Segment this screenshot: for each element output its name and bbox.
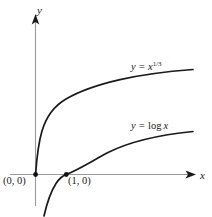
curve-label-cube-root-base: y = x <box>131 61 153 72</box>
y-axis <box>32 14 40 206</box>
curve-cube-root <box>36 70 193 175</box>
y-axis-label: y <box>37 5 42 16</box>
curve-label-cube-root-exponent: 1/3 <box>153 60 162 68</box>
x-axis-label: x <box>200 170 205 181</box>
figure-container: y x (0, 0) (1, 0) y = x1/3 y = logx <box>0 0 212 217</box>
origin-point-label: (0, 0) <box>3 176 26 187</box>
curve-label-log-var: y = <box>131 120 148 131</box>
curve-label-log-operator: log <box>148 120 161 131</box>
plot-canvas <box>0 0 212 217</box>
curve-label-cube-root: y = x1/3 <box>131 62 162 73</box>
marker-origin <box>33 172 38 177</box>
curve-label-log-arg: x <box>161 120 168 131</box>
curve-label-log: y = logx <box>131 121 168 132</box>
x-intercept-point-label: (1, 0) <box>68 176 91 187</box>
